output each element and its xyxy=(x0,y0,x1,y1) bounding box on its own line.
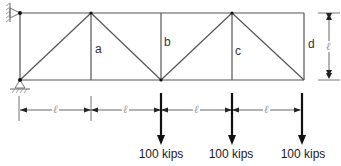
diagonal-4 xyxy=(232,13,304,80)
label-c: c xyxy=(235,45,241,57)
span-length-2: ℓ xyxy=(122,104,129,115)
height-length: ℓ xyxy=(325,41,332,52)
load-label-2: 100 kips xyxy=(209,148,254,160)
load-arrows xyxy=(157,93,306,145)
label-b: b xyxy=(164,36,171,48)
top-support-icon xyxy=(6,3,20,22)
diagonal-3 xyxy=(161,13,232,80)
load-label-3: 100 kips xyxy=(281,148,326,160)
truss-diagram xyxy=(0,0,341,166)
span-length-1: ℓ xyxy=(52,104,59,115)
span-length-3: ℓ xyxy=(193,104,200,115)
load-label-1: 100 kips xyxy=(139,148,184,160)
label-a: a xyxy=(95,43,102,55)
span-length-4: ℓ xyxy=(263,104,270,115)
label-d: d xyxy=(308,38,315,50)
diagonal-1 xyxy=(20,13,91,80)
